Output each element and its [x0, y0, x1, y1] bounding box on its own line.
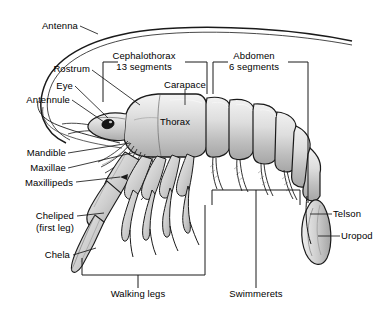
label-telson: Telson	[333, 208, 361, 219]
leader-rostrum	[92, 70, 140, 105]
label-rostrum: Rostrum	[0, 63, 90, 74]
label-maxillae: Maxillae	[0, 162, 66, 173]
label-uropod: Uropod	[341, 230, 373, 241]
label-swimmerets: Swimmerets	[218, 288, 294, 299]
telson-uropod-group	[302, 196, 331, 264]
label-cephalothorax: Cephalothorax	[108, 50, 180, 61]
leader-antenna	[80, 26, 98, 34]
leader-antennule	[72, 100, 104, 122]
bracket-swimmerets	[212, 190, 300, 288]
label-antenna: Antenna	[0, 20, 78, 31]
label-cheliped-sublabel: (first leg)	[0, 222, 74, 233]
label-cephalothorax-sublabel: 13 segments	[108, 61, 180, 72]
label-thorax: Thorax	[150, 116, 200, 127]
label-walking-legs: Walking legs	[100, 288, 176, 299]
abdomen-segments	[206, 97, 321, 201]
label-abdomen: Abdomen	[221, 50, 287, 61]
label-eye: Eye	[0, 80, 73, 91]
label-maxillipeds: Maxillipeds	[0, 177, 73, 188]
label-chela: Chela	[0, 249, 70, 260]
label-cheliped: Cheliped	[0, 210, 74, 221]
walking-legs-group	[122, 154, 199, 257]
label-antennule: Antennule	[0, 94, 70, 105]
label-mandible: Mandible	[0, 147, 66, 158]
label-carapace: Carapace	[155, 79, 215, 90]
label-abdomen-sublabel: 6 segments	[221, 61, 287, 72]
